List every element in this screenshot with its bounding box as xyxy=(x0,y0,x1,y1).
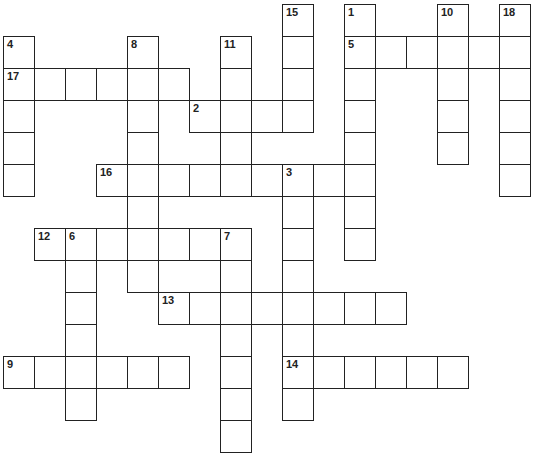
crossword-cell[interactable] xyxy=(282,324,314,357)
crossword-cell[interactable]: 10 xyxy=(437,4,469,37)
crossword-cell[interactable] xyxy=(127,228,159,261)
crossword-cell[interactable] xyxy=(499,132,531,165)
crossword-cell[interactable] xyxy=(158,356,190,389)
crossword-cell[interactable] xyxy=(282,196,314,229)
crossword-cell[interactable]: 4 xyxy=(3,36,35,69)
crossword-cell[interactable]: 13 xyxy=(158,292,190,325)
crossword-cell[interactable] xyxy=(127,100,159,133)
crossword-cell[interactable] xyxy=(344,164,376,197)
crossword-cell[interactable]: 3 xyxy=(282,164,314,197)
clue-number: 4 xyxy=(7,39,13,50)
crossword-cell[interactable] xyxy=(220,260,252,293)
crossword-cell[interactable] xyxy=(220,420,252,453)
crossword-cell[interactable] xyxy=(313,164,345,197)
crossword-cell[interactable] xyxy=(282,292,314,325)
crossword-cell[interactable] xyxy=(499,164,531,197)
crossword-cell[interactable] xyxy=(282,388,314,421)
crossword-cell[interactable] xyxy=(282,68,314,101)
crossword-cell[interactable] xyxy=(437,36,469,69)
crossword-cell[interactable] xyxy=(251,100,283,133)
crossword-cell[interactable] xyxy=(96,228,128,261)
crossword-cell[interactable]: 1 xyxy=(344,4,376,37)
crossword-cell[interactable] xyxy=(282,100,314,133)
crossword-cell[interactable] xyxy=(344,68,376,101)
crossword-cell[interactable] xyxy=(499,68,531,101)
crossword-cell[interactable] xyxy=(189,292,221,325)
crossword-cell[interactable] xyxy=(127,132,159,165)
crossword-cell[interactable] xyxy=(65,260,97,293)
crossword-cell[interactable]: 6 xyxy=(65,228,97,261)
crossword-cell[interactable] xyxy=(437,100,469,133)
crossword-cell[interactable]: 11 xyxy=(220,36,252,69)
crossword-cell[interactable] xyxy=(34,68,66,101)
crossword-cell[interactable] xyxy=(158,68,190,101)
crossword-cell[interactable] xyxy=(65,292,97,325)
clue-number: 1 xyxy=(348,7,354,18)
crossword-cell[interactable] xyxy=(344,292,376,325)
crossword-cell[interactable] xyxy=(344,196,376,229)
crossword-cell[interactable]: 8 xyxy=(127,36,159,69)
crossword-cell[interactable]: 2 xyxy=(189,100,221,133)
crossword-cell[interactable] xyxy=(468,36,500,69)
crossword-cell[interactable] xyxy=(34,356,66,389)
crossword-cell[interactable] xyxy=(65,388,97,421)
crossword-cell[interactable]: 16 xyxy=(96,164,128,197)
crossword-cell[interactable] xyxy=(220,388,252,421)
crossword-cell[interactable] xyxy=(65,68,97,101)
crossword-cell[interactable] xyxy=(220,100,252,133)
crossword-cell[interactable] xyxy=(375,356,407,389)
crossword-cell[interactable] xyxy=(437,356,469,389)
crossword-cell[interactable] xyxy=(189,164,221,197)
crossword-cell[interactable] xyxy=(220,68,252,101)
crossword-cell[interactable] xyxy=(65,324,97,357)
crossword-cell[interactable] xyxy=(220,132,252,165)
crossword-cell[interactable] xyxy=(282,228,314,261)
crossword-cell[interactable] xyxy=(158,228,190,261)
crossword-cell[interactable] xyxy=(282,36,314,69)
crossword-cell[interactable] xyxy=(406,36,438,69)
crossword-cell[interactable] xyxy=(96,68,128,101)
crossword-cell[interactable] xyxy=(3,132,35,165)
crossword-cell[interactable]: 7 xyxy=(220,228,252,261)
crossword-cell[interactable] xyxy=(220,324,252,357)
crossword-cell[interactable]: 5 xyxy=(344,36,376,69)
crossword-cell[interactable] xyxy=(220,292,252,325)
crossword-cell[interactable] xyxy=(313,292,345,325)
crossword-cell[interactable]: 14 xyxy=(282,356,314,389)
crossword-cell[interactable] xyxy=(65,356,97,389)
crossword-cell[interactable] xyxy=(127,356,159,389)
crossword-cell[interactable] xyxy=(251,164,283,197)
crossword-cell[interactable] xyxy=(406,356,438,389)
crossword-cell[interactable] xyxy=(313,356,345,389)
crossword-cell[interactable] xyxy=(3,100,35,133)
crossword-cell[interactable] xyxy=(220,164,252,197)
crossword-cell[interactable] xyxy=(189,228,221,261)
crossword-cell[interactable]: 9 xyxy=(3,356,35,389)
crossword-cell[interactable]: 18 xyxy=(499,4,531,37)
crossword-cell[interactable] xyxy=(251,292,283,325)
crossword-cell[interactable]: 12 xyxy=(34,228,66,261)
clue-number: 11 xyxy=(224,39,236,50)
crossword-cell[interactable] xyxy=(344,132,376,165)
crossword-cell[interactable] xyxy=(96,356,128,389)
crossword-cell[interactable] xyxy=(3,164,35,197)
crossword-cell[interactable] xyxy=(220,356,252,389)
crossword-cell[interactable] xyxy=(437,68,469,101)
crossword-cell[interactable] xyxy=(127,68,159,101)
crossword-cell[interactable] xyxy=(127,164,159,197)
crossword-cell[interactable] xyxy=(344,228,376,261)
crossword-cell[interactable] xyxy=(344,100,376,133)
crossword-cell[interactable]: 17 xyxy=(3,68,35,101)
crossword-cell[interactable]: 15 xyxy=(282,4,314,37)
crossword-cell[interactable] xyxy=(344,356,376,389)
crossword-cell[interactable] xyxy=(437,132,469,165)
clue-number: 12 xyxy=(38,231,50,242)
crossword-cell[interactable] xyxy=(375,36,407,69)
crossword-cell[interactable] xyxy=(499,100,531,133)
crossword-cell[interactable] xyxy=(127,260,159,293)
crossword-cell[interactable] xyxy=(282,260,314,293)
crossword-cell[interactable] xyxy=(375,292,407,325)
crossword-cell[interactable] xyxy=(158,164,190,197)
crossword-cell[interactable] xyxy=(499,36,531,69)
crossword-cell[interactable] xyxy=(127,196,159,229)
